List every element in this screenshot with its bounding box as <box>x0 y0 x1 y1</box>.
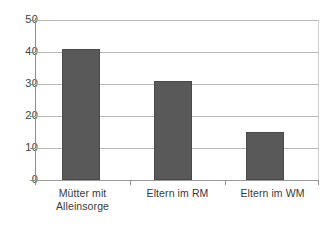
x-axis-category-label-1: Eltern im RM <box>130 187 225 200</box>
x-axis-category-label-0-line-2: Alleinsorge <box>35 200 130 213</box>
x-axis-tick-right <box>318 180 319 185</box>
gridline-50 <box>35 20 319 21</box>
bar-muetter-mit-alleinsorge[interactable] <box>62 49 100 180</box>
x-axis-category-label-2: Eltern im WM <box>225 187 320 200</box>
x-axis-tick-left <box>35 180 36 185</box>
plot-area <box>35 20 319 180</box>
x-axis-tick-sep-1 <box>130 180 131 185</box>
plot-right-border <box>318 20 319 180</box>
x-axis-category-label-0-line-1: Mütter mit <box>59 187 107 199</box>
bar-chart-figure: 50 40 30 20 10 0 Mütter mit Alleinsorge … <box>0 0 327 225</box>
x-axis-category-label-2-line-1: Eltern im WM <box>240 187 304 199</box>
bar-eltern-im-rm[interactable] <box>154 81 192 180</box>
x-axis-category-label-0: Mütter mit Alleinsorge <box>35 187 130 213</box>
bar-eltern-im-wm[interactable] <box>246 132 284 180</box>
gridline-0-baseline <box>35 180 319 181</box>
x-axis-tick-sep-2 <box>225 180 226 185</box>
x-axis-category-label-1-line-1: Eltern im RM <box>147 187 209 199</box>
